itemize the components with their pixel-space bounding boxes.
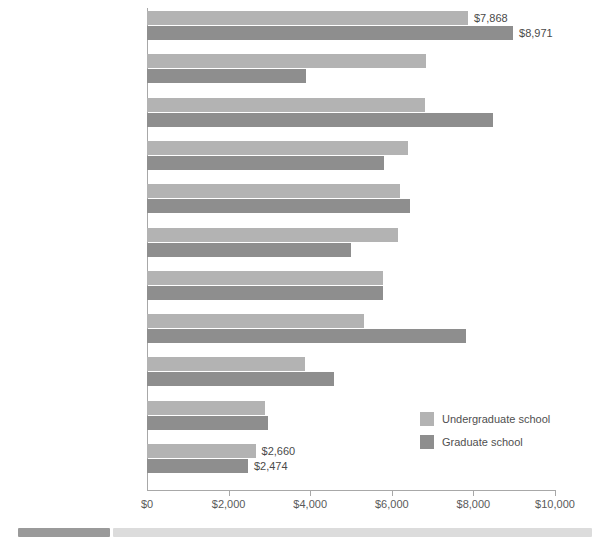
chart-category-row: Ontario$7,868$8,971	[147, 8, 555, 51]
scrollbar-thumb[interactable]	[18, 528, 110, 537]
bar-undergraduate	[147, 314, 364, 328]
legend-item: Graduate school	[420, 435, 550, 449]
bar-graduate	[147, 329, 466, 343]
legend-swatch	[420, 412, 434, 426]
chart-category-row: CANADA	[147, 181, 555, 224]
bar-undergraduate	[147, 357, 305, 371]
bar-graduate	[147, 286, 383, 300]
bar-undergraduate	[147, 271, 383, 285]
chart-category-row: New Brunswick	[147, 138, 555, 181]
x-axis-tick	[310, 490, 311, 496]
bar-graduate: $2,474	[147, 459, 248, 473]
bar-chart: $0$2,000$4,000$6,000$8,000$10,000 Ontari…	[0, 0, 592, 539]
bar-graduate	[147, 69, 306, 83]
bar-value-label: $7,868	[474, 11, 508, 25]
scrollbar-track[interactable]	[113, 528, 592, 537]
bar-graduate	[147, 156, 384, 170]
bar-graduate	[147, 243, 351, 257]
x-axis-tick-label: $6,000	[375, 498, 409, 510]
bar-undergraduate: $7,868	[147, 11, 468, 25]
bar-graduate	[147, 113, 493, 127]
bar-undergraduate	[147, 184, 400, 198]
x-axis-tick	[473, 490, 474, 496]
x-axis-tick	[555, 490, 556, 496]
chart-category-row: Alberta	[147, 268, 555, 311]
x-axis-tick-label: $10,000	[535, 498, 575, 510]
bar-undergraduate	[147, 54, 426, 68]
legend-item: Undergraduate school	[420, 412, 550, 426]
chart-category-row: Nova Scotia	[147, 95, 555, 138]
x-axis-tick	[229, 490, 230, 496]
bar-graduate	[147, 372, 334, 386]
chart-category-row: Prince Edward Island	[147, 225, 555, 268]
bar-value-label: $2,660	[262, 444, 296, 458]
x-axis-tick-label: $8,000	[457, 498, 491, 510]
chart-legend: Undergraduate schoolGraduate school	[420, 412, 550, 458]
x-axis-tick-label: $2,000	[212, 498, 246, 510]
horizontal-scrollbar[interactable]	[0, 525, 592, 539]
x-axis-tick-label: $4,000	[293, 498, 327, 510]
bar-undergraduate	[147, 141, 408, 155]
x-axis-line	[147, 490, 555, 491]
bar-graduate: $8,971	[147, 26, 513, 40]
legend-label: Undergraduate school	[442, 413, 550, 425]
chart-category-row: British Columbia	[147, 311, 555, 354]
bar-value-label: $8,971	[519, 26, 553, 40]
bar-graduate	[147, 416, 268, 430]
x-axis-tick-label: $0	[141, 498, 153, 510]
legend-label: Graduate school	[442, 436, 523, 448]
chart-category-row: Manitoba	[147, 354, 555, 397]
bar-undergraduate: $2,660	[147, 444, 256, 458]
bar-undergraduate	[147, 228, 398, 242]
bar-undergraduate	[147, 98, 425, 112]
bar-undergraduate	[147, 401, 265, 415]
chart-category-row: Saskatchewan	[147, 51, 555, 94]
x-axis-tick	[392, 490, 393, 496]
legend-swatch	[420, 435, 434, 449]
bar-graduate	[147, 199, 410, 213]
bar-value-label: $2,474	[254, 459, 288, 473]
